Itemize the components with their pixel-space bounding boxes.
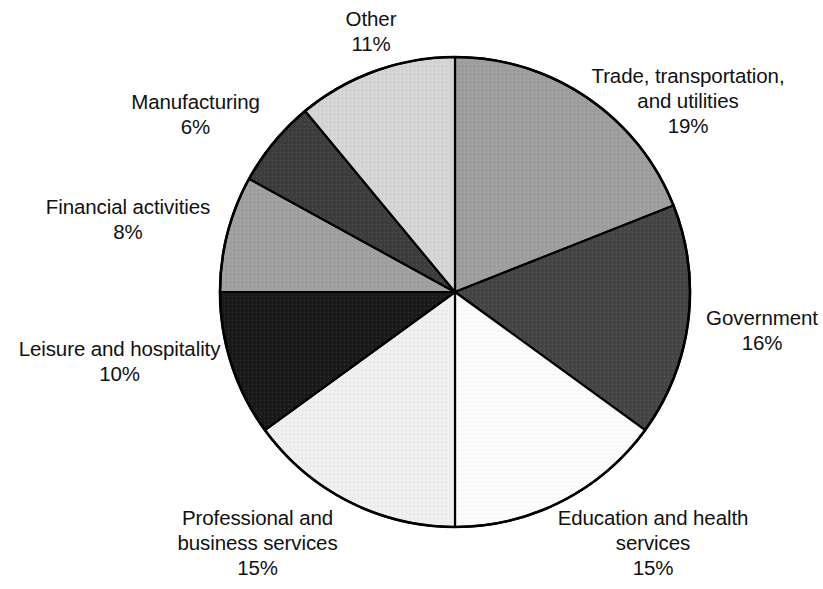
slice-label-professional-line2: business services (150, 530, 365, 555)
slice-label-trade-transportation-utilities: Trade, transportation, and utilities 19% (578, 63, 798, 138)
slice-label-other-text: Other (311, 6, 431, 31)
slice-label-government-text: Government (692, 305, 823, 330)
slice-label-financial-activities-text: Financial activities (28, 194, 228, 219)
slice-label-education-and-health-services: Education and health services 15% (548, 505, 758, 580)
slice-label-education-line2: services (548, 530, 758, 555)
slice-label-trade-line1: Trade, transportation, (578, 63, 798, 88)
slice-label-professional-value: 15% (150, 555, 365, 580)
slice-label-manufacturing-value: 6% (108, 114, 283, 139)
slice-label-manufacturing: Manufacturing 6% (108, 89, 283, 139)
slice-label-leisure-and-hospitality: Leisure and hospitality 10% (7, 336, 232, 386)
slice-label-financial-activities: Financial activities 8% (28, 194, 228, 244)
slice-label-leisure-and-hospitality-text: Leisure and hospitality (7, 336, 232, 361)
slice-label-government: Government 16% (692, 305, 823, 355)
slice-label-trade-value: 19% (578, 113, 798, 138)
slice-label-professional-and-business-services: Professional and business services 15% (150, 505, 365, 580)
slice-label-other: Other 11% (311, 6, 431, 56)
slice-label-professional-line1: Professional and (150, 505, 365, 530)
slice-label-manufacturing-text: Manufacturing (108, 89, 283, 114)
slice-label-education-line1: Education and health (548, 505, 758, 530)
slice-label-leisure-and-hospitality-value: 10% (7, 361, 232, 386)
slice-label-government-value: 16% (692, 330, 823, 355)
slice-label-education-value: 15% (548, 555, 758, 580)
slice-label-trade-line2: and utilities (578, 88, 798, 113)
slice-label-other-value: 11% (311, 31, 431, 56)
slice-label-financial-activities-value: 8% (28, 219, 228, 244)
